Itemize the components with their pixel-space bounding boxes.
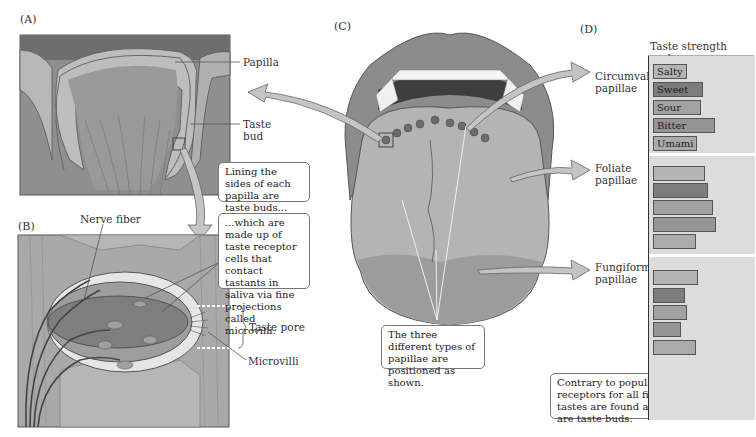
bar-circumvallate-umami: Umami: [653, 136, 697, 151]
bar-foliate-sweet: [653, 183, 708, 198]
bar-fungiform-sweet: [653, 288, 685, 303]
bar-foliate-bitter: [653, 217, 716, 232]
bar-circumvallate-salty: Salty: [653, 64, 687, 79]
bar-circumvallate-sour: Sour: [653, 100, 701, 115]
taste-strength-chart: Salty Sweet Sour Bitter Umami: [648, 56, 755, 420]
papilla-label: Papilla: [243, 56, 279, 68]
nerve-fiber-label: Nerve fiber: [80, 213, 141, 225]
bar-circumvallate-sweet: Sweet: [653, 82, 703, 97]
bar-fungiform-sour: [653, 305, 687, 320]
callout-receptor-cells: ...which are made up of taste receptor c…: [218, 213, 310, 289]
bar-foliate-umami: [653, 234, 696, 249]
taste-bud-label: Taste bud: [243, 118, 277, 142]
fungiform-label: Fungiform papillae: [595, 261, 645, 285]
foliate-label: Foliate papillae: [595, 162, 645, 186]
taste-bud-detail: [18, 224, 246, 427]
group-divider: [649, 254, 755, 257]
circumvallate-label: Circumvallate papillae: [595, 70, 650, 94]
bar-fungiform-salty: [653, 270, 698, 285]
microvilli-label: Microvilli: [248, 355, 299, 367]
papilla-cross-section: [20, 35, 240, 195]
bar-fungiform-bitter: [653, 322, 681, 337]
bar-foliate-sour: [653, 200, 713, 215]
bar-circumvallate-bitter: Bitter: [653, 118, 715, 133]
bar-fungiform-umami: [653, 340, 696, 355]
callout-lining: Lining the sides of each papilla are tas…: [218, 162, 310, 202]
bar-foliate-salty: [653, 166, 705, 181]
callout-three-types: The three different types of papillae ar…: [381, 325, 485, 369]
group-divider: [649, 153, 755, 156]
